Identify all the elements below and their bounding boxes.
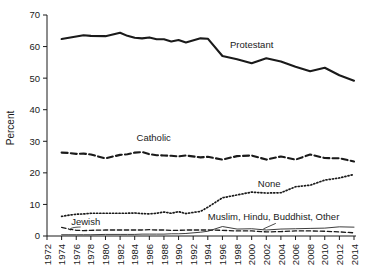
x-axis-tick-label: 2012 xyxy=(334,244,345,265)
religious-affiliation-line-chart: 010203040506070 197219741976197819801982… xyxy=(0,0,370,277)
x-axis-tick-label: 1998 xyxy=(232,244,243,265)
y-axis-title: Percent xyxy=(5,111,16,146)
x-axis-tick-label: 1994 xyxy=(202,244,213,265)
y-axis-tick-label: 10 xyxy=(29,199,40,210)
x-axis-tick-label: 1996 xyxy=(217,244,228,265)
x-axis-tick-label: 1984 xyxy=(129,244,140,265)
y-axis-tick-label: 60 xyxy=(29,41,40,52)
x-axis-tick-label: 1988 xyxy=(159,244,170,265)
y-axis-tick-label: 70 xyxy=(29,9,40,20)
x-axis-tick-label: 1990 xyxy=(173,244,184,265)
x-axis-tick-label: 1980 xyxy=(100,244,111,265)
x-axis-tick-label: 1972 xyxy=(42,244,53,265)
y-axis-tick-label: 40 xyxy=(29,104,40,115)
x-axis-tick-label: 1978 xyxy=(85,244,96,265)
y-axis-tick-label: 30 xyxy=(29,136,40,147)
x-axis-tick-label: 2014 xyxy=(349,244,360,265)
series-label-jewish: Jewish xyxy=(71,216,100,227)
y-axis-tick-label: 0 xyxy=(35,230,40,241)
chart-canvas: 010203040506070 197219741976197819801982… xyxy=(0,0,370,277)
x-axis-tick-label: 2004 xyxy=(276,244,287,265)
x-axis-tick-label: 1976 xyxy=(71,244,82,265)
x-axis-tick-label: 2006 xyxy=(290,244,301,265)
x-axis-tick-label: 2002 xyxy=(261,244,272,265)
series-label-none: None xyxy=(258,178,281,189)
series-label-muslim: Muslim, Hindu, Buddhist, Other xyxy=(208,211,339,222)
x-axis-tick-label: 2008 xyxy=(305,244,316,265)
series-label-protestant: Protestant xyxy=(230,39,274,50)
x-axis-tick-label: 2000 xyxy=(246,244,257,265)
y-axis-tick-label: 20 xyxy=(29,167,40,178)
series-label-catholic: Catholic xyxy=(137,132,172,143)
x-axis-tick-label: 1992 xyxy=(188,244,199,265)
x-axis-tick-label: 1986 xyxy=(144,244,155,265)
x-axis-tick-label: 2010 xyxy=(319,244,330,265)
y-axis-tick-label: 50 xyxy=(29,73,40,84)
x-axis-tick-label: 1982 xyxy=(115,244,126,265)
x-axis-tick-label: 1974 xyxy=(56,244,67,265)
